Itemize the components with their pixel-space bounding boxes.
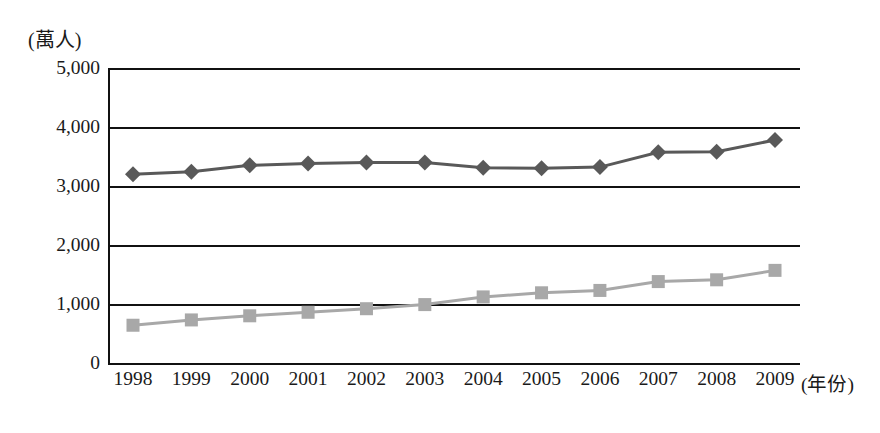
x-axis-line <box>108 363 800 365</box>
x-axis-tick-labels: 1998199920002001200220032004200520062007… <box>0 368 880 408</box>
x-tick-label-2009: 2009 <box>756 368 795 390</box>
plot-area <box>108 68 800 363</box>
x-tick-label-2005: 2005 <box>522 368 561 390</box>
x-tick-label-2008: 2008 <box>697 368 736 390</box>
y-tick-label-4000: 4,000 <box>56 116 100 138</box>
gridline-4000 <box>108 127 800 129</box>
gridline-2000 <box>108 245 800 247</box>
y-tick-label-3000: 3,000 <box>56 175 100 197</box>
x-tick-label-2006: 2006 <box>580 368 619 390</box>
gridline-1000 <box>108 304 800 306</box>
x-tick-label-2000: 2000 <box>230 368 269 390</box>
chart-container: (萬人) 01,0002,0003,0004,0005,000 19981999… <box>0 0 880 433</box>
y-tick-label-1000: 1,000 <box>56 293 100 315</box>
x-tick-label-2003: 2003 <box>405 368 444 390</box>
gridline-5000 <box>108 68 800 70</box>
x-tick-label-2004: 2004 <box>464 368 503 390</box>
y-tick-label-5000: 5,000 <box>56 57 100 79</box>
y-tick-label-2000: 2,000 <box>56 234 100 256</box>
x-tick-label-1999: 1999 <box>172 368 211 390</box>
gridline-3000 <box>108 186 800 188</box>
x-axis-unit-label: (年份) <box>801 368 854 397</box>
x-tick-label-1998: 1998 <box>114 368 153 390</box>
x-tick-label-2001: 2001 <box>289 368 328 390</box>
x-tick-label-2002: 2002 <box>347 368 386 390</box>
x-tick-label-2007: 2007 <box>639 368 678 390</box>
